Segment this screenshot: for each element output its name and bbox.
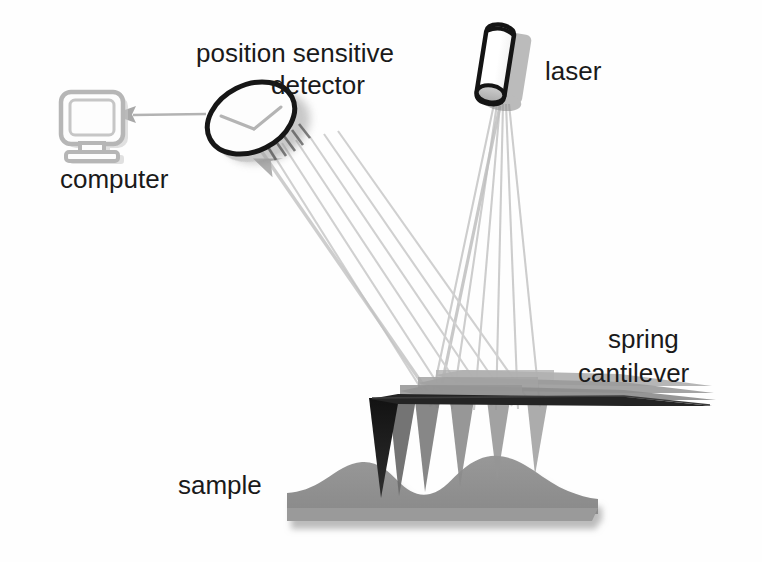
computer[interactable] — [61, 92, 128, 164]
afm-schematic-svg: position sensitive detector laser comput… — [0, 0, 762, 562]
afm-diagram-canvas: position sensitive detector laser comput… — [0, 0, 762, 562]
cantilever-label-line2: cantilever — [578, 358, 690, 388]
sample-label: sample — [178, 470, 262, 500]
sample-base — [287, 508, 598, 521]
laser-label: laser — [545, 56, 602, 86]
monitor-screen — [70, 100, 114, 135]
cantilever-label-line1: spring — [608, 324, 679, 354]
monitor-base — [66, 152, 118, 161]
signal-line — [133, 114, 206, 115]
detector-label-line1: position sensitive — [196, 38, 394, 68]
computer-label: computer — [60, 164, 169, 194]
detector-label-line2: detector — [271, 70, 365, 100]
